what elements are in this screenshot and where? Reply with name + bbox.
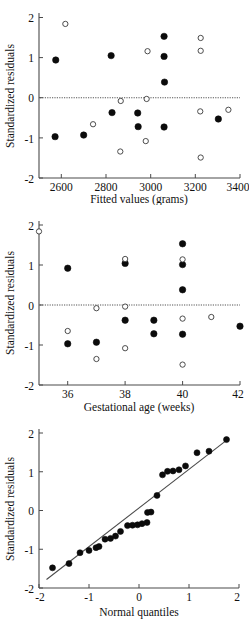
data-point-filled	[237, 323, 243, 329]
data-point-open	[65, 328, 70, 333]
data-point-filled	[118, 528, 124, 534]
data-point-filled	[86, 547, 92, 553]
x-ticklabel-3400: 3400	[227, 181, 250, 193]
y-ticklabel-neg1: -1	[24, 133, 34, 145]
data-point-open	[198, 155, 203, 160]
figure-page: 2 1 0 -1 -2 2600 2800 3000 3200 3400 Fit…	[0, 0, 249, 631]
data-point-open	[180, 257, 185, 262]
chart-gestational-age-residuals: 2 1 0 -1 -2 36 38 40 42 Gestational age …	[0, 205, 249, 415]
x-ticklabel-3000: 3000	[139, 181, 162, 193]
y-ticklabel-2: 2	[28, 220, 34, 232]
data-point-filled	[80, 132, 86, 138]
data-point-filled	[65, 265, 71, 271]
x-ticklabel-2600: 2600	[50, 181, 73, 193]
data-point-filled	[206, 448, 212, 454]
x-ticklabel-40: 40	[177, 388, 189, 400]
data-point-filled	[96, 544, 102, 550]
data-point-filled	[176, 467, 182, 473]
data-point-open	[144, 96, 149, 101]
y-ticklabel-1: 1	[28, 52, 34, 64]
data-point-filled	[50, 565, 56, 571]
data-point-filled	[215, 116, 221, 122]
data-point-open	[36, 229, 41, 234]
x-ticklabel-3200: 3200	[184, 181, 207, 193]
data-point-open	[198, 109, 203, 114]
series-layer	[36, 229, 243, 368]
data-point-open	[226, 107, 231, 112]
data-point-open	[145, 49, 150, 54]
y-axis-title: Standardized residuals	[4, 457, 16, 561]
data-point-filled	[53, 57, 59, 63]
x-ticklabel-2: 2	[234, 591, 240, 603]
x-ticklabel-neg1: -1	[84, 591, 94, 603]
data-point-open	[122, 346, 127, 351]
data-point-open	[118, 98, 123, 103]
x-ticklabel-38: 38	[119, 388, 131, 400]
data-point-filled	[179, 287, 185, 293]
data-point-filled	[161, 79, 167, 85]
data-point-filled	[154, 492, 160, 498]
qq-reference-line	[47, 438, 230, 579]
y-ticklabel-neg2: -2	[24, 380, 34, 392]
data-point-open	[90, 122, 95, 127]
data-point-filled	[144, 520, 150, 526]
data-point-open	[94, 356, 99, 361]
data-point-open	[209, 314, 214, 319]
data-point-filled	[65, 341, 71, 347]
data-point-filled	[170, 468, 176, 474]
y-ticklabel-0: 0	[28, 92, 34, 104]
series-layer	[50, 437, 230, 571]
data-point-filled	[66, 561, 72, 567]
y-axis-title: Standardized residuals	[4, 251, 16, 355]
data-point-filled	[52, 133, 58, 139]
data-point-filled	[102, 536, 108, 542]
y-ticklabel-1: 1	[28, 260, 34, 272]
data-point-filled	[77, 550, 83, 556]
fitted-values-plot-area: 2 1 0 -1 -2 2600 2800 3000 3200 3400 Fit…	[0, 0, 249, 205]
data-point-filled	[122, 317, 128, 323]
data-point-open	[180, 316, 185, 321]
data-point-open	[198, 48, 203, 53]
data-point-filled	[179, 241, 185, 247]
data-point-open	[143, 138, 148, 143]
data-point-filled	[194, 450, 200, 456]
data-point-filled	[148, 509, 154, 515]
y-ticklabel-neg2: -2	[24, 583, 34, 595]
data-point-filled	[183, 463, 189, 469]
x-ticklabel-36: 36	[62, 388, 74, 400]
x-ticklabel-0: 0	[136, 591, 142, 603]
data-point-filled	[151, 331, 157, 337]
y-ticklabel-neg1: -1	[24, 544, 34, 556]
data-point-filled	[113, 533, 119, 539]
data-point-filled	[135, 110, 141, 116]
x-axis-title: Normal quantiles	[99, 606, 179, 619]
series-layer	[52, 21, 231, 160]
data-point-filled	[161, 124, 167, 130]
reference-line-layer	[47, 438, 230, 579]
y-ticklabel-0: 0	[28, 300, 34, 312]
y-ticklabel-0: 0	[28, 505, 34, 517]
data-point-open	[118, 149, 123, 154]
data-point-open	[63, 21, 68, 26]
data-point-filled	[108, 52, 114, 58]
chart-normal-qq-plot: 2 1 0 -1 -2 -2 -1 0 1 2 Normal quantiles…	[0, 415, 249, 631]
data-point-open	[198, 35, 203, 40]
gestational-age-plot-area: 2 1 0 -1 -2 36 38 40 42 Gestational age …	[0, 205, 249, 415]
data-point-filled	[165, 468, 171, 474]
y-axis-title: Standardized residuals	[4, 44, 16, 148]
data-point-open	[122, 256, 127, 261]
y-ticklabel-neg1: -1	[24, 340, 34, 352]
data-point-filled	[179, 331, 185, 337]
y-ticklabel-2: 2	[28, 428, 34, 440]
x-ticklabel-neg2: -2	[35, 591, 45, 603]
x-ticklabel-42: 42	[232, 388, 244, 400]
x-ticklabel-1: 1	[186, 591, 192, 603]
data-point-filled	[135, 123, 141, 129]
data-point-filled	[161, 53, 167, 59]
normal-qq-plot-area: 2 1 0 -1 -2 -2 -1 0 1 2 Normal quantiles…	[0, 415, 249, 631]
data-point-filled	[224, 437, 230, 443]
x-axis-title: Gestational age (weeks)	[84, 401, 195, 414]
data-point-filled	[109, 109, 115, 115]
data-point-filled	[93, 339, 99, 345]
data-point-filled	[161, 33, 167, 39]
